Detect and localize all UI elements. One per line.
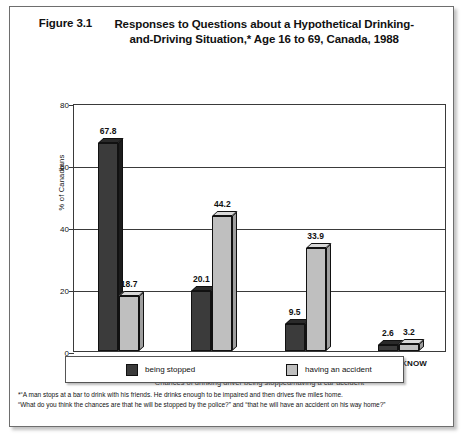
- footnote-line-2: “What do you think the chances are that …: [18, 400, 443, 410]
- bar-value-label: 9.5: [289, 307, 301, 317]
- y-axis-tick-label: 20: [60, 287, 69, 296]
- figure-footnote: *“A man stops at a bar to drink with his…: [18, 390, 443, 410]
- bar-group: 67.818.7LOW: [74, 105, 167, 351]
- figure-number: Figure 3.1: [39, 17, 104, 29]
- bar-group: 9.533.9HIGH: [261, 105, 354, 351]
- y-axis-tick-mark: [69, 353, 74, 354]
- bar-side-face: [326, 244, 331, 351]
- chart-region: % of Canadians 02040608067.818.7LOW20.14…: [10, 48, 455, 348]
- bar-group: 2.63.2DON'T KNOW: [354, 105, 447, 351]
- legend-swatch-being-stopped: [126, 364, 138, 376]
- legend-label-having-an-accident: having an accident: [305, 365, 372, 374]
- bar-being-stopped: 20.1: [191, 291, 211, 351]
- bar-being-stopped: 67.8: [98, 143, 118, 351]
- bar-front-face: [378, 345, 398, 351]
- bar-front-face: [119, 296, 139, 351]
- bar-front-face: [285, 324, 305, 351]
- bar-front-face: [399, 344, 419, 351]
- chart-legend: being stopped having an accident: [65, 356, 404, 383]
- y-axis-tick-label: 80: [60, 101, 69, 110]
- legend-label-being-stopped: being stopped: [145, 365, 195, 374]
- y-axis-tick-label: 40: [60, 225, 69, 234]
- bar-having-an-accident: 33.9: [306, 248, 326, 351]
- legend-swatch-having-an-accident: [286, 364, 298, 376]
- bar-value-label: 67.8: [100, 126, 117, 136]
- legend-item-being-stopped: being stopped: [126, 364, 195, 376]
- bar-being-stopped: 9.5: [285, 324, 305, 351]
- bar-value-label: 33.9: [307, 231, 324, 241]
- legend-item-having-an-accident: having an accident: [286, 364, 372, 376]
- bar-having-an-accident: 3.2: [399, 344, 419, 351]
- bar-value-label: 44.2: [214, 199, 231, 209]
- bar-value-label: 2.6: [382, 328, 394, 338]
- bar-being-stopped: 2.6: [378, 345, 398, 351]
- bar-side-face: [139, 291, 144, 351]
- bar-side-face: [232, 212, 237, 351]
- footnote-line-1: *“A man stops at a bar to drink with his…: [18, 390, 443, 400]
- bar-front-face: [306, 248, 326, 351]
- bar-front-face: [98, 143, 118, 351]
- bar-having-an-accident: 44.2: [212, 216, 232, 351]
- bar-having-an-accident: 18.7: [119, 296, 139, 351]
- bar-value-label: 3.2: [403, 327, 415, 337]
- y-axis-tick-label: 60: [60, 163, 69, 172]
- bar-value-label: 18.7: [121, 279, 138, 289]
- figure-title-block: Figure 3.1 Responses to Questions about …: [10, 7, 453, 48]
- bar-value-label: 20.1: [193, 274, 210, 284]
- bar-front-face: [212, 216, 232, 351]
- page-title: Responses to Questions about a Hypotheti…: [104, 17, 424, 46]
- plot-area: 02040608067.818.7LOW20.144.2MEDIUM9.533.…: [73, 104, 446, 352]
- bar-front-face: [191, 291, 211, 351]
- bar-group: 20.144.2MEDIUM: [167, 105, 260, 351]
- figure-card: Figure 3.1 Responses to Questions about …: [9, 6, 454, 427]
